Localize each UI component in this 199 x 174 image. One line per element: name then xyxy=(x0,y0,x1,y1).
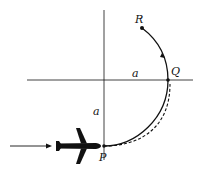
point-Q-label: Q xyxy=(171,66,180,77)
incoming-arrow-head-icon xyxy=(46,144,52,149)
horizontal-dimension-label: a xyxy=(132,68,139,79)
point-R-marker xyxy=(140,26,144,30)
point-Q-marker xyxy=(166,78,170,82)
point-P-marker xyxy=(102,144,106,148)
solid-arc-path xyxy=(104,28,168,146)
point-R-label: R xyxy=(135,14,143,25)
point-P-label: P xyxy=(99,152,106,163)
flight-path-diagram xyxy=(0,0,199,174)
vertical-dimension-label: a xyxy=(93,106,100,117)
airplane-icon xyxy=(56,128,101,164)
